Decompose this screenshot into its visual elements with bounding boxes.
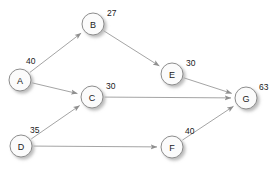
graph-node-b[interactable]: B27 (82, 8, 117, 35)
edge-d-f (34, 146, 158, 147)
node-value-a: 40 (26, 56, 36, 66)
graph-node-e[interactable]: E30 (161, 58, 196, 85)
node-value-b: 27 (107, 8, 117, 18)
node-label-b: B (90, 20, 96, 30)
node-label-e: E (169, 70, 175, 80)
node-value-g: 63 (259, 82, 269, 92)
edge-a-b (30, 33, 81, 72)
graph-node-f[interactable]: F40 (161, 126, 195, 158)
node-label-f: F (169, 143, 175, 153)
edge-c-g (105, 97, 232, 98)
node-value-e: 30 (186, 58, 196, 68)
graph-node-a[interactable]: A40 (9, 56, 36, 91)
node-value-f: 40 (185, 126, 195, 136)
graph-node-c[interactable]: C30 (81, 81, 116, 108)
node-value-c: 30 (106, 81, 116, 91)
node-label-g: G (242, 94, 249, 104)
edge-e-g (184, 78, 232, 94)
edge-a-c (32, 83, 77, 94)
graph-node-d[interactable]: D35 (10, 125, 40, 157)
nodes-layer: A40B27C30D35E30F40G63 (9, 8, 269, 158)
edge-b-e (104, 31, 160, 66)
graph-svg: A40B27C30D35E30F40G63 (0, 0, 280, 175)
node-value-d: 35 (30, 125, 40, 135)
edges-layer (30, 31, 234, 147)
node-label-d: D (18, 142, 25, 152)
node-label-c: C (89, 93, 96, 103)
graph-node-g[interactable]: G63 (235, 82, 269, 109)
node-label-a: A (17, 76, 23, 86)
diagram-canvas: A40B27C30D35E30F40G63 (0, 0, 280, 175)
